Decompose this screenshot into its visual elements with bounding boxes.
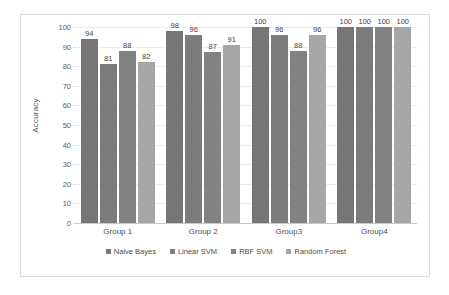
- bar-value-label: 100: [377, 17, 390, 26]
- bar-value-label: 96: [190, 25, 198, 34]
- y-axis-title: Accuracy: [31, 76, 40, 156]
- bar-column: 98: [166, 27, 183, 223]
- y-axis-tick-label: 20: [63, 179, 71, 188]
- bar[interactable]: [185, 35, 202, 223]
- legend-swatch-icon: [286, 249, 291, 254]
- bar-set: 98968791: [161, 27, 247, 223]
- bar-value-label: 88: [294, 41, 302, 50]
- bar-column: 96: [309, 27, 326, 223]
- y-axis-tick-label: 100: [58, 23, 71, 32]
- bar-groups: 9481888298968791100968896100100100100: [75, 27, 417, 223]
- bar[interactable]: [138, 62, 155, 223]
- bar[interactable]: [100, 64, 117, 223]
- x-axis-tick-labels: Group 1Group 2Group3Group4: [75, 227, 417, 243]
- x-axis-tick-label: Group4: [332, 227, 418, 243]
- bar[interactable]: [81, 39, 98, 223]
- y-axis-tick-label: 50: [63, 121, 71, 130]
- legend-swatch-icon: [170, 249, 175, 254]
- bar[interactable]: [309, 35, 326, 223]
- bar-column: 96: [271, 27, 288, 223]
- bar-value-label: 81: [104, 54, 112, 63]
- legend-swatch-icon: [231, 249, 236, 254]
- bar-set: 100968896: [246, 27, 332, 223]
- bar-column: 100: [356, 27, 373, 223]
- y-axis-tick-label: 80: [63, 62, 71, 71]
- bar-group: 100968896: [246, 27, 332, 223]
- bar-column: 100: [337, 27, 354, 223]
- y-axis-tick-label: 70: [63, 81, 71, 90]
- bar-set: 100100100100: [332, 27, 418, 223]
- bar-column: 81: [100, 27, 117, 223]
- bar-column: 88: [119, 27, 136, 223]
- legend-item[interactable]: RBF SVM: [231, 247, 272, 256]
- bar-column: 100: [252, 27, 269, 223]
- legend-item[interactable]: Naive Bayes: [106, 247, 156, 256]
- x-axis-tick-label: Group 2: [161, 227, 247, 243]
- legend-swatch-icon: [106, 249, 111, 254]
- bar[interactable]: [394, 27, 411, 223]
- bar-group: 94818882: [75, 27, 161, 223]
- bar-column: 100: [394, 27, 411, 223]
- bar-column: 82: [138, 27, 155, 223]
- legend-item[interactable]: Random Forest: [286, 247, 346, 256]
- bar-column: 87: [204, 27, 221, 223]
- bar-value-label: 100: [254, 17, 267, 26]
- y-axis-tick-label: 10: [63, 199, 71, 208]
- bar-column: 91: [223, 27, 240, 223]
- bar-value-label: 100: [396, 17, 409, 26]
- chart-legend: Naive BayesLinear SVMRBF SVMRandom Fores…: [21, 247, 431, 256]
- bar[interactable]: [271, 35, 288, 223]
- bar[interactable]: [356, 27, 373, 223]
- y-axis-tick-label: 0: [67, 219, 71, 228]
- bar[interactable]: [252, 27, 269, 223]
- y-axis-tick-label: 90: [63, 42, 71, 51]
- x-axis-tick-label: Group 1: [75, 227, 161, 243]
- bar-group: 100100100100: [332, 27, 418, 223]
- bar-value-label: 98: [171, 21, 179, 30]
- y-axis-tick-label: 30: [63, 160, 71, 169]
- y-axis-tick-label: 60: [63, 101, 71, 110]
- bar-column: 100: [375, 27, 392, 223]
- bar-value-label: 91: [228, 35, 236, 44]
- bar-value-label: 96: [313, 25, 321, 34]
- chart-frame: Accuracy 1009080706050403020100 94818882…: [20, 14, 430, 277]
- bar-column: 94: [81, 27, 98, 223]
- bar[interactable]: [119, 51, 136, 223]
- legend-label: Naive Bayes: [114, 247, 156, 256]
- bar-value-label: 87: [209, 42, 217, 51]
- bar[interactable]: [223, 45, 240, 223]
- x-axis-tick-label: Group3: [246, 227, 332, 243]
- bar[interactable]: [166, 31, 183, 223]
- bar[interactable]: [375, 27, 392, 223]
- bar-column: 96: [185, 27, 202, 223]
- bar-group: 98968791: [161, 27, 247, 223]
- bar-value-label: 88: [123, 41, 131, 50]
- bar-value-label: 94: [85, 29, 93, 38]
- bar-value-label: 100: [339, 17, 352, 26]
- bar[interactable]: [204, 52, 221, 223]
- bar-set: 94818882: [75, 27, 161, 223]
- y-axis-tick-label: 40: [63, 140, 71, 149]
- bar-column: 88: [290, 27, 307, 223]
- bar[interactable]: [290, 51, 307, 223]
- y-axis-tick-labels: 1009080706050403020100: [43, 27, 71, 223]
- legend-label: RBF SVM: [239, 247, 272, 256]
- bar-value-label: 100: [358, 17, 371, 26]
- bar-value-label: 82: [142, 52, 150, 61]
- bar[interactable]: [337, 27, 354, 223]
- legend-label: Random Forest: [294, 247, 346, 256]
- plot-area: 9481888298968791100968896100100100100: [75, 27, 417, 223]
- bar-value-label: 96: [275, 25, 283, 34]
- legend-label: Linear SVM: [178, 247, 217, 256]
- legend-item[interactable]: Linear SVM: [170, 247, 217, 256]
- axis-baseline: [75, 223, 417, 224]
